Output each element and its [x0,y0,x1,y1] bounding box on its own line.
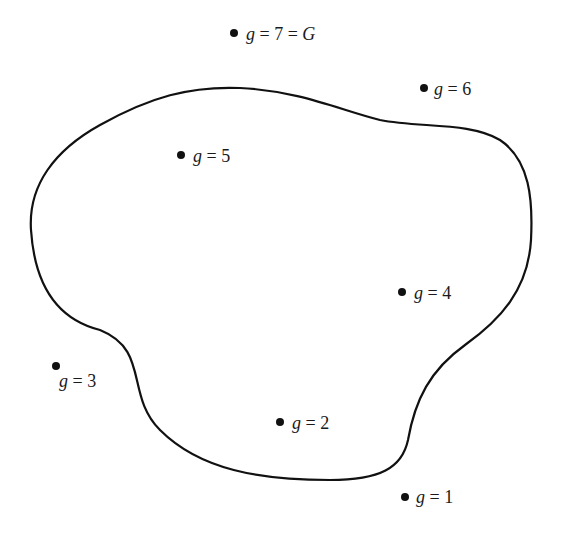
point-label: g = 1 [416,487,453,507]
point-dot [52,362,60,370]
point-g7: g = 7 = G [230,24,315,44]
point-label: g = 3 [59,371,96,391]
point-dot [401,493,409,501]
point-label: g = 5 [193,146,230,166]
point-label: g = 7 = G [246,24,315,44]
point-dot [177,151,185,159]
point-g2: g = 2 [276,413,329,433]
point-dot [230,29,238,37]
diagram-canvas: g = 1g = 2g = 3g = 4g = 5g = 6g = 7 = G [0,0,565,536]
point-g1: g = 1 [401,487,453,507]
point-label: g = 4 [414,283,451,303]
point-g6: g = 6 [420,79,471,99]
point-label: g = 6 [434,79,471,99]
point-g4: g = 4 [398,283,451,303]
point-dot [276,418,284,426]
point-label: g = 2 [292,413,329,433]
point-g3: g = 3 [52,362,96,391]
point-dot [398,288,406,296]
point-g5: g = 5 [177,146,230,166]
point-dot [420,84,428,92]
